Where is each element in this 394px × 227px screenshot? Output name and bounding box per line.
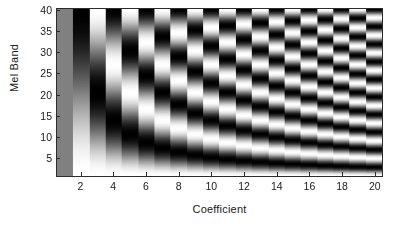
x-tick-label: 18 bbox=[329, 181, 355, 192]
x-axis-label: Coefficient bbox=[56, 203, 383, 215]
x-tick-label: 8 bbox=[166, 181, 192, 192]
x-tick-mark bbox=[179, 172, 180, 176]
heatmap-plot-area bbox=[56, 8, 383, 177]
y-tick-mark bbox=[56, 31, 60, 32]
y-tick-label: 15 bbox=[30, 111, 52, 121]
x-tick-label: 20 bbox=[362, 181, 388, 192]
y-tick-label: 35 bbox=[30, 26, 52, 36]
x-tick-mark bbox=[113, 172, 114, 176]
y-tick-label: 5 bbox=[30, 153, 52, 163]
x-tick-label: 2 bbox=[68, 181, 94, 192]
x-tick-label: 12 bbox=[231, 181, 257, 192]
x-tick-label: 6 bbox=[133, 181, 159, 192]
figure-canvas: Mel Band Coefficient 5101520253035402468… bbox=[0, 0, 394, 227]
y-tick-mark bbox=[56, 52, 60, 53]
x-tick-label: 14 bbox=[264, 181, 290, 192]
y-axis-label: Mel Band bbox=[8, 28, 20, 108]
y-tick-label: 20 bbox=[30, 90, 52, 100]
x-tick-mark bbox=[211, 172, 212, 176]
x-tick-mark bbox=[342, 172, 343, 176]
y-tick-mark bbox=[56, 137, 60, 138]
x-tick-mark bbox=[375, 172, 376, 176]
y-tick-mark bbox=[56, 10, 60, 11]
y-tick-label: 40 bbox=[30, 5, 52, 15]
y-tick-label: 10 bbox=[30, 132, 52, 142]
x-tick-mark bbox=[309, 172, 310, 176]
x-tick-label: 10 bbox=[198, 181, 224, 192]
x-tick-label: 4 bbox=[100, 181, 126, 192]
x-tick-label: 16 bbox=[296, 181, 322, 192]
y-tick-mark bbox=[56, 116, 60, 117]
y-tick-label: 25 bbox=[30, 68, 52, 78]
y-tick-mark bbox=[56, 73, 60, 74]
y-tick-mark bbox=[56, 95, 60, 96]
x-tick-mark bbox=[244, 172, 245, 176]
x-tick-mark bbox=[277, 172, 278, 176]
x-tick-mark bbox=[146, 172, 147, 176]
y-tick-label: 30 bbox=[30, 47, 52, 57]
heatmap-image bbox=[57, 9, 382, 176]
y-tick-mark bbox=[56, 158, 60, 159]
x-tick-mark bbox=[81, 172, 82, 176]
